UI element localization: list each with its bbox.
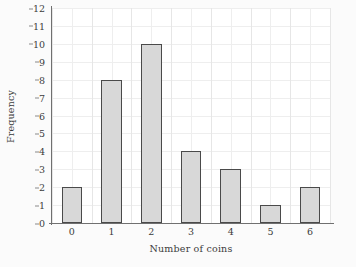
y-axis-tick-label: 2 [39, 182, 45, 193]
y-axis-tick-label: 5 [39, 128, 45, 139]
gridline-vertical [290, 8, 291, 223]
x-axis-tick-label: 6 [307, 226, 313, 237]
y-axis-tick-mark [35, 98, 39, 99]
gridline-vertical [211, 8, 212, 223]
y-axis-tick-mark [29, 44, 33, 45]
y-axis-title-label: Frequency [6, 89, 17, 142]
y-axis-tick-label: 7 [39, 92, 45, 103]
x-axis-line [49, 223, 334, 224]
gridline-vertical [330, 8, 331, 223]
gridline-vertical [92, 8, 93, 223]
y-axis-tick-mark [35, 169, 39, 170]
x-axis-tick-label: 4 [228, 226, 234, 237]
y-axis-tick-label: 12 [33, 3, 45, 14]
bar [141, 44, 162, 223]
y-axis-tick-label: 11 [33, 20, 45, 31]
gridline-vertical-minor [270, 8, 271, 223]
x-axis-tick-label: 2 [148, 226, 154, 237]
y-axis-tick-label: 4 [39, 146, 45, 157]
bar [220, 169, 241, 223]
x-axis-tick-label: 1 [109, 226, 115, 237]
gridline-vertical [251, 8, 252, 223]
x-axis-tick-label: 3 [188, 226, 194, 237]
y-axis-tick-mark [35, 187, 39, 188]
gridline-vertical [131, 8, 132, 223]
y-axis-tick-label: 8 [39, 74, 45, 85]
y-axis-line [51, 6, 52, 225]
y-axis-tick-label: 6 [39, 110, 45, 121]
y-axis-tick-label: 9 [39, 56, 45, 67]
y-axis-tick-label: 0 [39, 218, 45, 229]
x-axis-tick-labels: 0123456 [52, 226, 330, 242]
y-axis-tick-mark [35, 223, 39, 224]
y-axis-tick-labels: 0123456789101112 [22, 0, 48, 232]
plot-area [52, 8, 330, 223]
y-axis-tick-mark [35, 205, 39, 206]
bar [260, 205, 281, 223]
y-axis-tick-mark [35, 62, 39, 63]
x-axis-tick-label: 0 [69, 226, 75, 237]
y-axis-tick-label: 3 [39, 164, 45, 175]
y-axis-tick-mark [35, 116, 39, 117]
y-axis-tick-mark [29, 8, 33, 9]
y-axis-tick-label: 1 [39, 200, 45, 211]
y-axis-title: Frequency [0, 0, 22, 232]
bar [300, 187, 321, 223]
y-axis-tick-label: 10 [33, 38, 45, 49]
y-axis-tick-mark [35, 80, 39, 81]
x-axis-tick-label: 5 [267, 226, 273, 237]
x-axis-title: Number of coins [52, 243, 330, 254]
bar [62, 187, 83, 223]
gridline-vertical [171, 8, 172, 223]
y-axis-tick-mark [29, 26, 33, 27]
bar-chart: Frequency 0123456789101112 0123456 Numbe… [0, 0, 356, 267]
bar [181, 151, 202, 223]
y-axis-tick-mark [35, 151, 39, 152]
y-axis-tick-mark [35, 133, 39, 134]
bar [101, 80, 122, 223]
